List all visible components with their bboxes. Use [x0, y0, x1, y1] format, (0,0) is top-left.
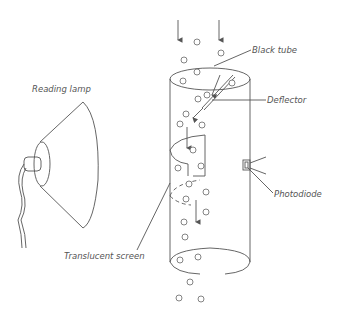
translucent-screen-label: Translucent screen [64, 251, 145, 261]
translucent-screen-leader [137, 183, 170, 250]
photodiode-icon [243, 157, 266, 174]
photodiode-label: Photodiode [274, 189, 322, 199]
diagram-canvas: Reading lamp [0, 0, 340, 318]
black-tube-label: Black tube [252, 45, 297, 55]
reading-lamp-label: Reading lamp [32, 84, 91, 94]
translucent-screen [170, 127, 205, 222]
deflector-label: Deflector [267, 95, 307, 105]
reading-lamp-icon [18, 102, 98, 248]
